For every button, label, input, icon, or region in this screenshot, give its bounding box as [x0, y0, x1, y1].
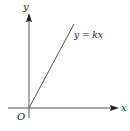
coordinate-diagram: y x O y = kx [0, 0, 130, 131]
y-axis-arrow-icon [26, 13, 32, 22]
x-axis-label: x [121, 102, 127, 113]
y-axis-label: y [22, 1, 29, 12]
origin-label: O [17, 111, 25, 122]
line-y-equals-kx [29, 24, 74, 108]
line-equation-label: y = kx [73, 30, 103, 40]
x-axis-arrow-icon [110, 105, 119, 111]
